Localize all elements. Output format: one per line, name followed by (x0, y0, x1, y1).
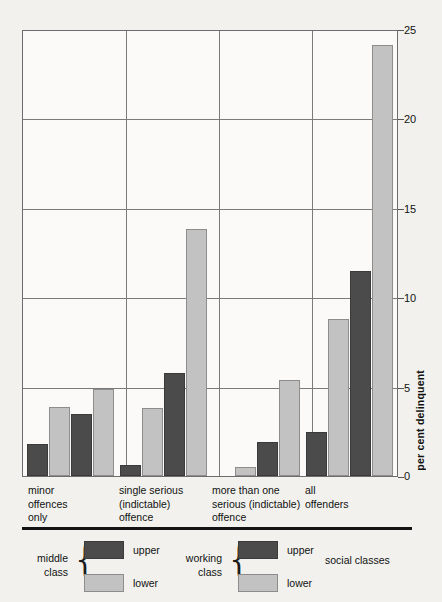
gridline-20 (23, 119, 397, 120)
bar-all-offenders-working-class-lower (372, 45, 393, 476)
y-tick-label-10: 10 (404, 293, 416, 304)
bar-more-than-one-serious-indictable-offence-working-class-lower (279, 380, 300, 476)
group-separator-3 (312, 31, 313, 476)
bar-single-serious-indictable-offence-middle-class-upper (120, 465, 141, 476)
bar-all-offenders-middle-class-upper (306, 432, 327, 477)
y-tick-label-25: 25 (404, 25, 416, 36)
y-tick-label-20: 20 (404, 114, 416, 125)
bar-minor-offences-only-middle-class-lower (49, 407, 70, 476)
legend-title: social classes (325, 554, 390, 566)
legend-divider (22, 527, 412, 530)
group-separator-1 (126, 31, 127, 476)
legend-label-middle-class-lower: lower (133, 577, 158, 590)
bar-single-serious-indictable-offence-working-class-upper (164, 373, 185, 476)
category-label-single-serious-indictable-offence: single serious (indictable) offence (119, 484, 183, 525)
y-tick-label-15: 15 (404, 204, 416, 215)
bar-more-than-one-serious-indictable-offence-middle-class-lower (235, 467, 256, 476)
gridline-10 (23, 298, 397, 299)
y-tick-label-0: 0 (404, 471, 410, 482)
legend-group-label-middle-class: middle class (18, 552, 68, 579)
bar-minor-offences-only-working-class-lower (93, 389, 114, 476)
y-axis-label: per cent delinquent (414, 370, 426, 471)
legend-swatch-working-class-upper (238, 541, 278, 559)
legend-group-label-working-class: working class (168, 552, 222, 579)
bar-all-offenders-working-class-upper (350, 271, 371, 476)
bar-single-serious-indictable-offence-middle-class-lower (142, 408, 163, 476)
legend-swatch-working-class-lower (238, 574, 278, 592)
bar-more-than-one-serious-indictable-offence-working-class-upper (257, 442, 278, 476)
group-separator-2 (219, 31, 220, 476)
legend-swatch-middle-class-upper (84, 541, 124, 559)
bar-minor-offences-only-middle-class-upper (27, 444, 48, 476)
category-label-minor-offences-only: minor offences only (28, 484, 68, 525)
legend-label-working-class-lower: lower (287, 577, 312, 590)
bar-all-offenders-middle-class-lower (328, 319, 349, 476)
legend-label-middle-class-upper: upper (133, 544, 160, 557)
bar-minor-offences-only-working-class-upper (71, 414, 92, 476)
y-tick-label-5: 5 (404, 383, 410, 394)
category-label-all-offenders: all offenders (305, 484, 349, 511)
gridline-15 (23, 209, 397, 210)
legend-swatch-middle-class-lower (84, 574, 124, 592)
delinquency-bar-chart: 25 20 15 10 5 0 per cent delinquent mino… (0, 0, 442, 602)
legend-label-working-class-upper: upper (287, 544, 314, 557)
bar-single-serious-indictable-offence-working-class-lower (186, 229, 207, 476)
category-label-more-than-one-serious-indictable-offence: more than one serious (indictable) offen… (212, 484, 300, 525)
plot-area (22, 30, 398, 477)
